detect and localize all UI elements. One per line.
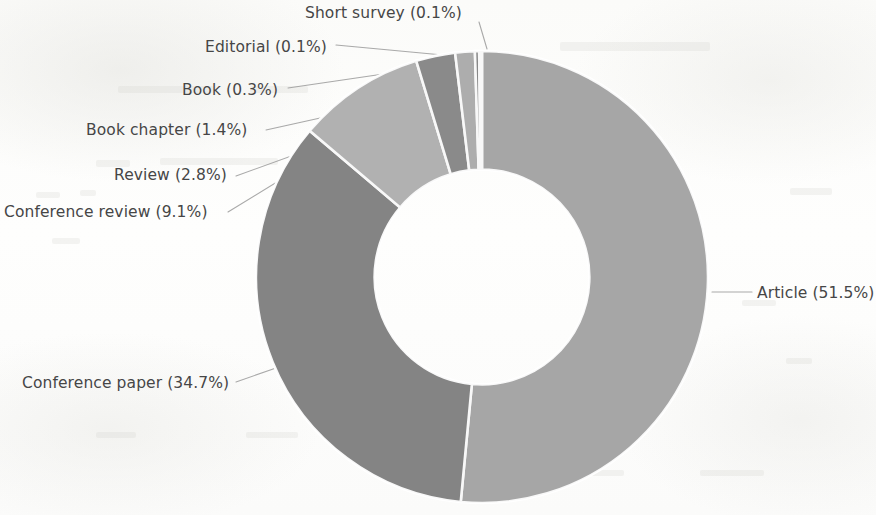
slice-label-book-chapter: Book chapter (1.4%) [86, 121, 247, 139]
slice-label-article: Article (51.5%) [757, 284, 875, 302]
slice-label-conference-review: Conference review (9.1%) [4, 203, 208, 221]
slice-label-editorial: Editorial (0.1%) [205, 38, 327, 56]
donut-chart: Article (51.5%)Conference paper (34.7%)C… [0, 0, 876, 515]
donut-slices-layer: Article (51.5%)Conference paper (34.7%)C… [0, 0, 876, 515]
slice-label-conference-paper: Conference paper (34.7%) [22, 374, 229, 392]
slice-label-review: Review (2.8%) [114, 166, 227, 184]
donut-grain-overlay [315, 110, 648, 443]
slice-label-short-survey: Short survey (0.1%) [305, 4, 462, 22]
slice-label-book: Book (0.3%) [182, 81, 278, 99]
